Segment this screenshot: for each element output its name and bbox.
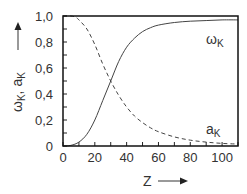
a-k-series-label: aK xyxy=(206,121,221,139)
y-tick-labels: 00,20,40,60,81,0 xyxy=(35,9,53,154)
y-tick-label: 0,2 xyxy=(35,113,53,128)
chart: 020406080100 00,20,40,60,81,0 ωK aK ωK, … xyxy=(0,0,247,194)
x-tick-label: 100 xyxy=(211,150,233,165)
y-tick-label: 1,0 xyxy=(35,9,53,24)
svg-text:ωK, aK: ωK, aK xyxy=(9,72,27,112)
y-axis-label: ωK, aK xyxy=(9,72,27,112)
x-tick-labels: 020406080100 xyxy=(59,150,233,165)
omega-k-series-label: ωK xyxy=(206,31,224,49)
y-tick-label: 0,8 xyxy=(35,35,53,50)
y-axis-arrow-icon xyxy=(15,22,22,50)
x-tick-label: 60 xyxy=(151,150,165,165)
x-axis-arrow-icon xyxy=(158,178,188,185)
x-axis-label: Z xyxy=(143,173,152,189)
y-tick-label: 0 xyxy=(46,139,53,154)
y-tick-label: 0,6 xyxy=(35,61,53,76)
x-tick-label: 20 xyxy=(88,150,102,165)
x-tick-label: 0 xyxy=(59,150,66,165)
x-tick-label: 40 xyxy=(119,150,133,165)
x-tick-label: 80 xyxy=(183,150,197,165)
y-tick-label: 0,4 xyxy=(35,87,53,102)
